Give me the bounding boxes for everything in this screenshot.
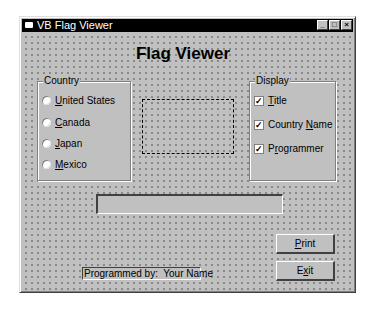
- app-icon[interactable]: [25, 22, 33, 28]
- checkbox-checked-icon: ✓: [254, 120, 264, 130]
- checkbox-label-post: itle: [274, 95, 287, 106]
- maximize-button[interactable]: □: [329, 20, 340, 30]
- checkbox-accel: N: [306, 119, 313, 130]
- radio-japan[interactable]: Japan: [42, 138, 82, 149]
- vb-flag-viewer-window: VB Flag Viewer _ □ × Flag Viewer Country…: [19, 16, 356, 293]
- form-body: Flag Viewer Country United States Canada…: [22, 32, 353, 290]
- option-label-post: exico: [63, 159, 86, 170]
- checkbox-checked-icon: ✓: [254, 144, 264, 154]
- checkbox-label-post: ogrammer: [278, 143, 324, 154]
- exit-label-post: it: [308, 265, 313, 276]
- print-button[interactable]: Print: [276, 234, 335, 254]
- minimize-button[interactable]: _: [317, 20, 328, 30]
- form-heading: Flag Viewer: [133, 44, 233, 64]
- radio-circle-icon: [42, 96, 51, 105]
- country-name-textbox[interactable]: [96, 194, 283, 214]
- checkbox-checked-icon: ✓: [254, 96, 264, 106]
- option-label-post: apan: [60, 138, 82, 149]
- checkbox-label-post: ame: [313, 119, 332, 130]
- option-label-post: nited States: [62, 95, 115, 106]
- option-label-post: anada: [62, 117, 90, 128]
- option-accel: M: [55, 159, 63, 170]
- window-title: VB Flag Viewer: [37, 19, 113, 32]
- checkbox-country-name[interactable]: ✓ Country Name: [254, 119, 332, 130]
- close-button[interactable]: ×: [341, 20, 352, 30]
- radio-canada[interactable]: Canada: [42, 117, 90, 128]
- print-label-post: rint: [301, 238, 315, 249]
- radio-circle-icon: [42, 139, 51, 148]
- flag-image-box: [142, 99, 234, 154]
- radio-united-states[interactable]: United States: [42, 95, 115, 106]
- radio-circle-icon: [42, 118, 51, 127]
- option-accel: C: [55, 117, 62, 128]
- programmer-label: Programmed by: Your Name: [82, 267, 201, 280]
- radio-mexico[interactable]: Mexico: [42, 159, 87, 170]
- option-accel: U: [55, 95, 62, 106]
- checkbox-label-pre: P: [268, 143, 275, 154]
- exit-button[interactable]: Exit: [276, 261, 335, 281]
- checkbox-label-pre: Country: [268, 119, 306, 130]
- checkbox-programmer[interactable]: ✓ Programmer: [254, 143, 324, 154]
- checkbox-title[interactable]: ✓ Title: [254, 95, 287, 106]
- title-bar[interactable]: VB Flag Viewer _ □ ×: [22, 19, 353, 32]
- country-frame: Country United States Canada Japan Mexic…: [37, 81, 131, 181]
- radio-circle-icon: [42, 160, 51, 169]
- country-frame-caption: Country: [43, 75, 80, 87]
- display-frame: Display ✓ Title ✓ Country Name ✓ Program…: [249, 81, 336, 181]
- display-frame-caption: Display: [255, 75, 290, 87]
